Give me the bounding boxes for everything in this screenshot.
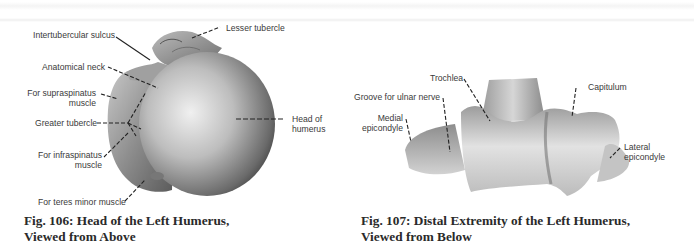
label-intertubercular-sulcus: Intertubercular sulcus	[33, 30, 115, 40]
caption-107-line1: Fig. 107: Distal Extremity of the Left H…	[361, 213, 630, 229]
figure-107-caption: Fig. 107: Distal Extremity of the Left H…	[361, 213, 630, 245]
label-head-of-humerus: Head of humerus	[292, 114, 325, 134]
label-infraspinatus: For infraspinatus muscle	[28, 150, 102, 170]
caption-106-line2: Viewed from Above	[24, 229, 229, 245]
label-head-line2: humerus	[292, 124, 325, 134]
caption-107-line2: Viewed from Below	[361, 229, 630, 245]
label-medial-epicondyle: Medial epicondyle	[355, 113, 403, 133]
label-lateral-line1: Lateral	[624, 142, 665, 152]
label-groove-ulnar-nerve: Groove for ulnar nerve	[354, 92, 440, 102]
trochlea-capitulum-shape	[461, 106, 620, 196]
label-capitulum: Capitulum	[588, 82, 627, 92]
figure-106-humerus-head: Lesser tubercle Intertubercular sulcus A…	[0, 0, 347, 247]
label-head-line1: Head of	[292, 114, 325, 124]
label-anatomical-neck: Anatomical neck	[42, 62, 105, 72]
medial-epicondyle-shape	[405, 124, 465, 174]
label-greater-tubercle: Greater tubercle	[35, 118, 97, 128]
label-trochlea: Trochlea	[430, 73, 463, 83]
label-medial-line1: Medial	[355, 113, 403, 123]
label-infraspinatus-line1: For infraspinatus	[28, 150, 102, 160]
label-infraspinatus-line2: muscle	[28, 160, 102, 170]
label-supraspinatus-line2: muscle	[22, 98, 96, 108]
label-lateral-line2: epicondyle	[624, 152, 665, 162]
figure-106-caption: Fig. 106: Head of the Left Humerus, View…	[24, 213, 229, 245]
label-lesser-tubercle: Lesser tubercle	[226, 23, 285, 33]
label-lateral-epicondyle: Lateral epicondyle	[624, 142, 665, 162]
label-supraspinatus: For supraspinatus muscle	[22, 88, 96, 108]
label-supraspinatus-line1: For supraspinatus	[22, 88, 96, 98]
figure-107-humerus-distal: Trochlea Capitulum Groove for ulnar nerv…	[347, 0, 694, 247]
caption-106-line1: Fig. 106: Head of the Left Humerus,	[24, 213, 229, 229]
label-medial-line2: epicondyle	[355, 123, 403, 133]
label-teres-minor: For teres minor muscle	[38, 197, 126, 207]
